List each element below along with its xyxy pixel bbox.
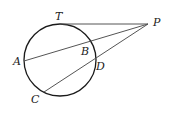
label-c: C	[31, 93, 40, 106]
label-a: A	[12, 55, 21, 68]
circle	[24, 24, 96, 96]
geometry-diagram: T P A B D C	[0, 0, 171, 114]
secant-segment-pc	[44, 24, 148, 92]
label-b: B	[80, 45, 89, 58]
label-d: D	[95, 60, 105, 73]
label-t: T	[55, 10, 64, 23]
label-p: P	[152, 16, 161, 29]
